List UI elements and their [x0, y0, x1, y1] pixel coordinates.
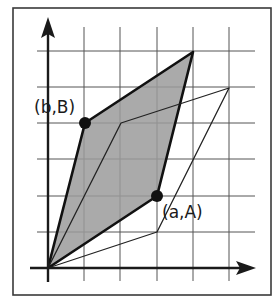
point-b-label: (b,B): [34, 97, 75, 117]
parallelogram-diagram: (b,B) (a,A): [0, 0, 280, 302]
point-a-label: (a,A): [162, 202, 203, 222]
point-a-dot: [151, 190, 163, 202]
point-b-dot: [79, 117, 91, 129]
